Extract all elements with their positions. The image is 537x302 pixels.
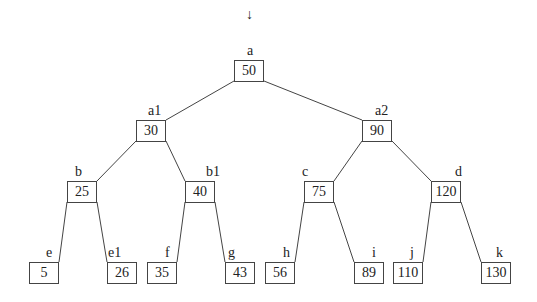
edge-a2-d: [392, 141, 431, 181]
tree-node-k: 130: [481, 262, 511, 284]
node-label-g: g: [228, 246, 235, 260]
edge-c-i: [334, 202, 354, 262]
tree-node-a2: 90: [362, 120, 392, 142]
edge-a1-b: [97, 141, 136, 181]
node-label-a2: a2: [375, 104, 388, 118]
tree-node-f: 35: [147, 262, 177, 284]
node-label-b1: b1: [206, 165, 220, 179]
tree-node-a1: 30: [136, 120, 166, 142]
node-label-e1: e1: [108, 246, 121, 260]
node-label-a: a: [247, 44, 253, 58]
tree-node-c: 75: [304, 181, 334, 203]
node-label-i: i: [372, 246, 376, 260]
edge-a2-c: [334, 141, 362, 181]
tree-node-e1: 26: [107, 262, 137, 284]
node-label-a1: a1: [148, 104, 161, 118]
tree-node-h: 56: [265, 262, 295, 284]
edge-d-k: [461, 202, 481, 262]
node-label-f: f: [165, 246, 170, 260]
edge-c-h: [295, 202, 304, 262]
edge-a-a2: [264, 81, 362, 120]
node-label-b: b: [75, 165, 82, 179]
edge-a-a1: [166, 81, 234, 120]
tree-node-i: 89: [354, 262, 384, 284]
edge-b1-f: [177, 202, 185, 262]
node-label-e: e: [46, 246, 52, 260]
tree-node-g: 43: [225, 262, 255, 284]
node-label-k: k: [496, 246, 503, 260]
node-label-h: h: [283, 246, 290, 260]
node-label-c: c: [302, 165, 308, 179]
tree-node-e: 5: [29, 262, 59, 284]
edge-b-e: [59, 202, 67, 262]
tree-node-j: 110: [393, 262, 423, 284]
tree-node-b1: 40: [185, 181, 215, 203]
edge-d-j: [423, 202, 431, 262]
tree-node-a: 50: [234, 60, 264, 82]
node-label-d: d: [455, 165, 462, 179]
edge-b1-g: [215, 202, 225, 262]
tree-node-d: 120: [431, 181, 461, 203]
node-label-j: j: [410, 246, 414, 260]
edge-a1-b1: [166, 141, 185, 181]
tree-node-b: 25: [67, 181, 97, 203]
tree-edges: [0, 0, 537, 302]
edge-b-e1: [97, 202, 107, 262]
